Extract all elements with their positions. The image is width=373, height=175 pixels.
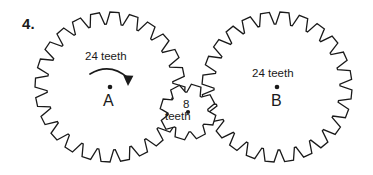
gear-c-teeth-count-label: 8 <box>183 98 189 110</box>
gear-b-shape <box>202 12 352 162</box>
gear-a-center-dot <box>108 85 113 90</box>
gear-train-diagram: 4. 24 teeth A 8 teeth 24 teeth B <box>0 0 373 175</box>
gear-b-name-label: B <box>271 92 282 110</box>
gear-a-name-label: A <box>103 92 114 110</box>
gear-b-center-dot <box>275 85 280 90</box>
gear-drawing-canvas <box>0 0 373 175</box>
problem-number-label: 4. <box>22 15 35 32</box>
gear-a-shape <box>35 12 185 162</box>
gear-c-teeth-word-label: teeth <box>165 110 191 122</box>
gear-a-teeth-label: 24 teeth <box>85 50 127 62</box>
gear-b-teeth-label: 24 teeth <box>252 67 294 79</box>
